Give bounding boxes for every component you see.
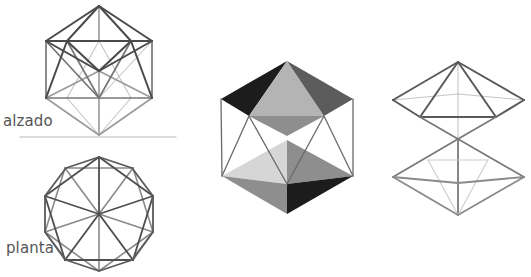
- plan-label: planta: [6, 239, 54, 257]
- plan-view: [45, 157, 153, 271]
- exploded-pyramids: [393, 62, 524, 215]
- icosahedron-projection-diagram: [0, 0, 531, 277]
- elevation-label: alzado: [3, 112, 53, 130]
- shaded-icosahedron: [221, 61, 353, 214]
